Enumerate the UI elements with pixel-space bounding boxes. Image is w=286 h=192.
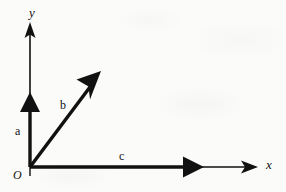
x-axis-label: x	[266, 158, 272, 171]
origin-label: O	[13, 169, 22, 181]
vector-diagram-figure: y x O a b c	[0, 0, 286, 192]
y-axis-label: y	[29, 6, 35, 19]
vector-b-arrowhead-icon	[77, 71, 102, 100]
vector-c-arrowhead-icon	[183, 157, 204, 178]
vector-a-label: a	[15, 125, 20, 137]
vector-diagram-canvas	[0, 0, 286, 192]
vector-a-arrowhead-icon	[20, 92, 40, 112]
vector-c-label: c	[119, 150, 124, 162]
vector-b-label: b	[60, 99, 66, 111]
